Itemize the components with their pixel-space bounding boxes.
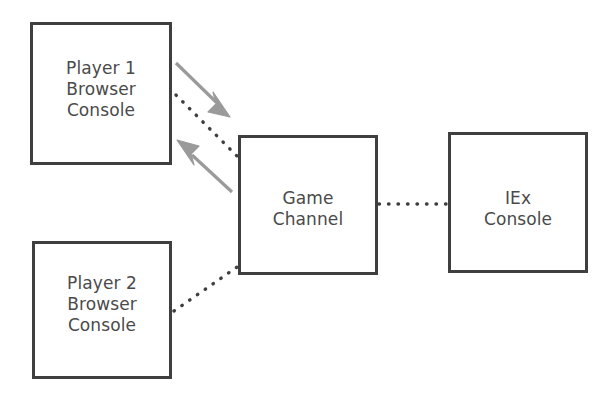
node-player2-label: Player 2 Browser Console — [67, 273, 137, 336]
node-iex-console[interactable]: IEx Console — [448, 132, 588, 273]
arrow-inbound-icon — [177, 140, 232, 192]
node-player1-label: Player 1 Browser Console — [66, 58, 136, 121]
arrow-outbound-icon — [176, 63, 230, 117]
node-iex-console-label: IEx Console — [484, 188, 552, 230]
edge-player2-gamechannel — [174, 265, 240, 311]
node-game-channel-label: Game Channel — [273, 188, 344, 230]
diagram-canvas: Player 1 Browser Console Player 2 Browse… — [0, 0, 613, 399]
node-player1-browser-console[interactable]: Player 1 Browser Console — [30, 22, 172, 165]
node-game-channel[interactable]: Game Channel — [238, 135, 378, 275]
edge-player1-gamechannel — [176, 95, 240, 159]
node-player2-browser-console[interactable]: Player 2 Browser Console — [32, 241, 172, 379]
